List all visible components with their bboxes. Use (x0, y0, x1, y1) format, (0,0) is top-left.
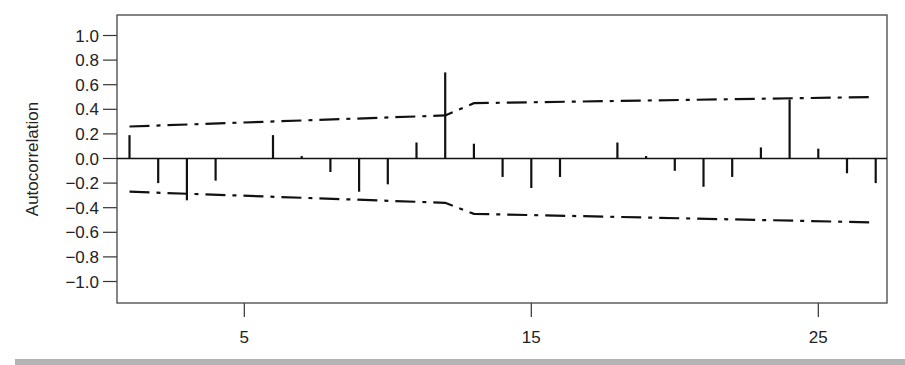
y-tick-label: −0.2 (65, 174, 99, 193)
y-tick-label: 0.2 (75, 125, 99, 144)
y-tick-label: −0.4 (65, 199, 99, 218)
y-tick-label: 0.4 (75, 100, 99, 119)
y-tick-label: 0.6 (75, 76, 99, 95)
y-tick-label: 0.8 (75, 51, 99, 70)
confidence-band-upper (130, 97, 876, 127)
x-tick-label: 15 (522, 328, 541, 347)
y-tick-label: −0.8 (65, 248, 99, 267)
y-axis-title: Autocorrelation (23, 102, 42, 216)
confidence-band-lower (130, 192, 876, 223)
x-axis: 51525 (240, 303, 828, 347)
y-tick-label: 0.0 (75, 150, 99, 169)
y-tick-label: 1.0 (75, 27, 99, 46)
x-tick-label: 5 (240, 328, 249, 347)
page-divider-bar (15, 359, 905, 365)
acf-stems (130, 72, 876, 200)
y-tick-label: −0.6 (65, 223, 99, 242)
x-tick-label: 25 (809, 328, 828, 347)
y-tick-label: −1.0 (65, 273, 99, 292)
y-axis: 1.00.80.60.40.20.0−0.2−0.4−0.6−0.8−1.0 (65, 27, 117, 292)
acf-chart: 1.00.80.60.40.20.0−0.2−0.4−0.6−0.8−1.0 5… (0, 0, 905, 365)
